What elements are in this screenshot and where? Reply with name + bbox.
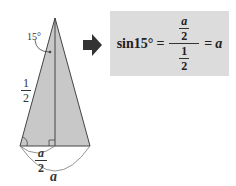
formula-lhs: sin15° (117, 36, 154, 52)
numerator-den: 2 (181, 30, 187, 42)
fraction-denominator: 1 2 (179, 45, 189, 72)
right-arrow-icon (83, 34, 102, 56)
formula-equals-1: = (156, 36, 164, 52)
denominator-num: 1 (181, 45, 187, 57)
angle-label: 15° (27, 31, 41, 42)
half-base-den: 2 (38, 162, 44, 174)
base-brace (20, 146, 90, 171)
side-den: 2 (23, 92, 29, 104)
half-base-num: a (38, 147, 44, 159)
base-label: a (50, 169, 57, 185)
formula-rhs: a (215, 36, 222, 52)
main-fraction: a 2 1 2 (169, 15, 199, 72)
denominator-den: 2 (181, 60, 187, 72)
formula-equals-2: = (204, 36, 212, 52)
angle-point (49, 51, 52, 54)
formula-box: sin15° = a 2 1 2 = a (110, 11, 229, 76)
half-base-label: a 2 (35, 147, 47, 174)
side-length-label: 1 2 (21, 77, 31, 104)
fraction-numerator: a 2 (179, 15, 189, 42)
side-num: 1 (23, 77, 29, 89)
sine-formula: sin15° = a 2 1 2 = a (110, 11, 229, 76)
numerator-num: a (181, 15, 187, 27)
